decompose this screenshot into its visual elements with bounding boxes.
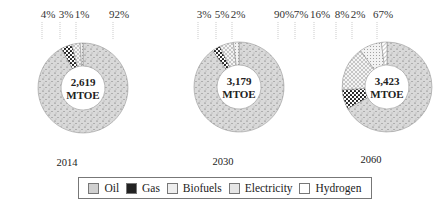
slice-percent-label: 67% bbox=[373, 8, 393, 20]
legend-item-hydrogen: Hydrogen bbox=[299, 182, 361, 194]
slice-percent-label: 92% bbox=[109, 8, 129, 20]
slice-percent-label: 5% bbox=[215, 8, 230, 20]
slice-percent-label: 1% bbox=[75, 8, 90, 20]
bio-swatch-icon bbox=[167, 183, 178, 194]
legend-label: Biofuels bbox=[183, 182, 222, 194]
legend-item-electricity: Electricity bbox=[229, 182, 293, 194]
year-label: 2060 bbox=[361, 154, 382, 165]
slice-percent-label: 7% bbox=[294, 8, 309, 20]
slice-percent-label: 2% bbox=[231, 8, 246, 20]
total-unit: MTOE bbox=[222, 88, 255, 100]
slice-percent-label: 8% bbox=[335, 8, 350, 20]
year-label: 2030 bbox=[213, 156, 234, 167]
total-unit: MTOE bbox=[370, 88, 403, 100]
total-value: 3,423 bbox=[375, 75, 400, 87]
legend-item-biofuels: Biofuels bbox=[167, 182, 222, 194]
slice-percent-label: 16% bbox=[310, 8, 330, 20]
legend-label: Hydrogen bbox=[315, 182, 361, 194]
oil-swatch-icon bbox=[88, 183, 99, 194]
legend-label: Oil bbox=[104, 182, 119, 194]
total-unit: MTOE bbox=[66, 89, 99, 101]
total-value: 2,619 bbox=[71, 76, 96, 88]
year-label: 2014 bbox=[57, 157, 79, 168]
legend-label: Electricity bbox=[245, 182, 293, 194]
chart-legend: OilGasBiofuelsElectricityHydrogen bbox=[78, 177, 372, 199]
legend-item-gas: Gas bbox=[126, 182, 160, 194]
legend-item-oil: Oil bbox=[88, 182, 119, 194]
legend-label: Gas bbox=[142, 182, 160, 194]
elec-swatch-icon bbox=[229, 183, 240, 194]
slice-percent-label: 2% bbox=[351, 8, 366, 20]
hyd-swatch-icon bbox=[299, 183, 310, 194]
slice-percent-label: 90% bbox=[274, 8, 294, 20]
slice-percent-label: 3% bbox=[197, 8, 212, 20]
gas-swatch-icon bbox=[126, 183, 137, 194]
slice-percent-label: 4% bbox=[41, 8, 56, 20]
total-value: 3,179 bbox=[227, 75, 252, 87]
slice-percent-label: 3% bbox=[59, 8, 74, 20]
